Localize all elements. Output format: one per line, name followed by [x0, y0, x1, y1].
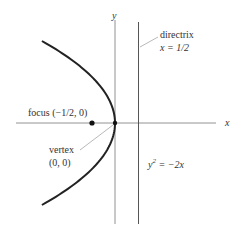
y-axis-label: y — [111, 10, 117, 21]
directrix-leader — [140, 37, 158, 47]
equation-rhs: = −2x — [156, 159, 184, 170]
directrix-title: directrix — [160, 29, 194, 40]
focus-point — [89, 120, 94, 125]
directrix-equation: x = 1/2 — [159, 42, 189, 53]
x-axis-label: x — [224, 117, 230, 128]
vertex-label: vertex — [49, 144, 74, 155]
parabola-diagram: y x directrix x = 1/2 focus (−1/2, 0) ve… — [0, 0, 234, 237]
equation-label: y2 = −2x — [147, 157, 184, 170]
focus-label: focus (−1/2, 0) — [28, 107, 87, 119]
vertex-coords: (0, 0) — [49, 157, 71, 169]
vertex-point — [113, 121, 117, 125]
